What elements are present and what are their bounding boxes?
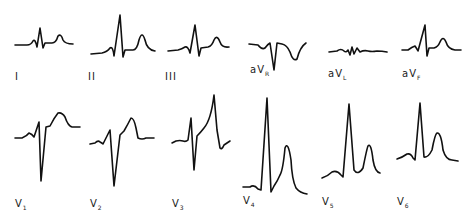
trace-lead-aVL — [329, 47, 387, 55]
lead-label-III: III — [165, 71, 177, 82]
lead-label-aVF: aVF — [402, 68, 421, 81]
lead-label-V1: V1 — [15, 198, 28, 211]
lead-label-V4: V4 — [243, 195, 256, 208]
lead-label-I: I — [15, 71, 19, 82]
trace-lead-V3 — [172, 95, 230, 170]
trace-lead-V2 — [90, 118, 154, 186]
trace-lead-V4 — [243, 98, 307, 194]
lead-label-V2: V2 — [90, 198, 103, 211]
trace-lead-V5 — [322, 104, 380, 178]
trace-lead-V6 — [397, 103, 458, 161]
lead-label-aVR: aVR — [250, 64, 270, 77]
lead-label-V3: V3 — [172, 198, 185, 211]
trace-lead-III — [168, 25, 229, 56]
trace-lead-aVF — [402, 25, 461, 56]
ecg-diagram — [0, 0, 473, 217]
trace-lead-V1 — [15, 113, 80, 181]
lead-label-V5: V5 — [322, 196, 335, 209]
trace-lead-II — [91, 15, 155, 57]
lead-label-II: II — [88, 71, 96, 82]
trace-lead-I — [15, 28, 73, 48]
lead-label-V6: V6 — [397, 196, 410, 209]
lead-label-aVL: aVL — [328, 68, 347, 81]
